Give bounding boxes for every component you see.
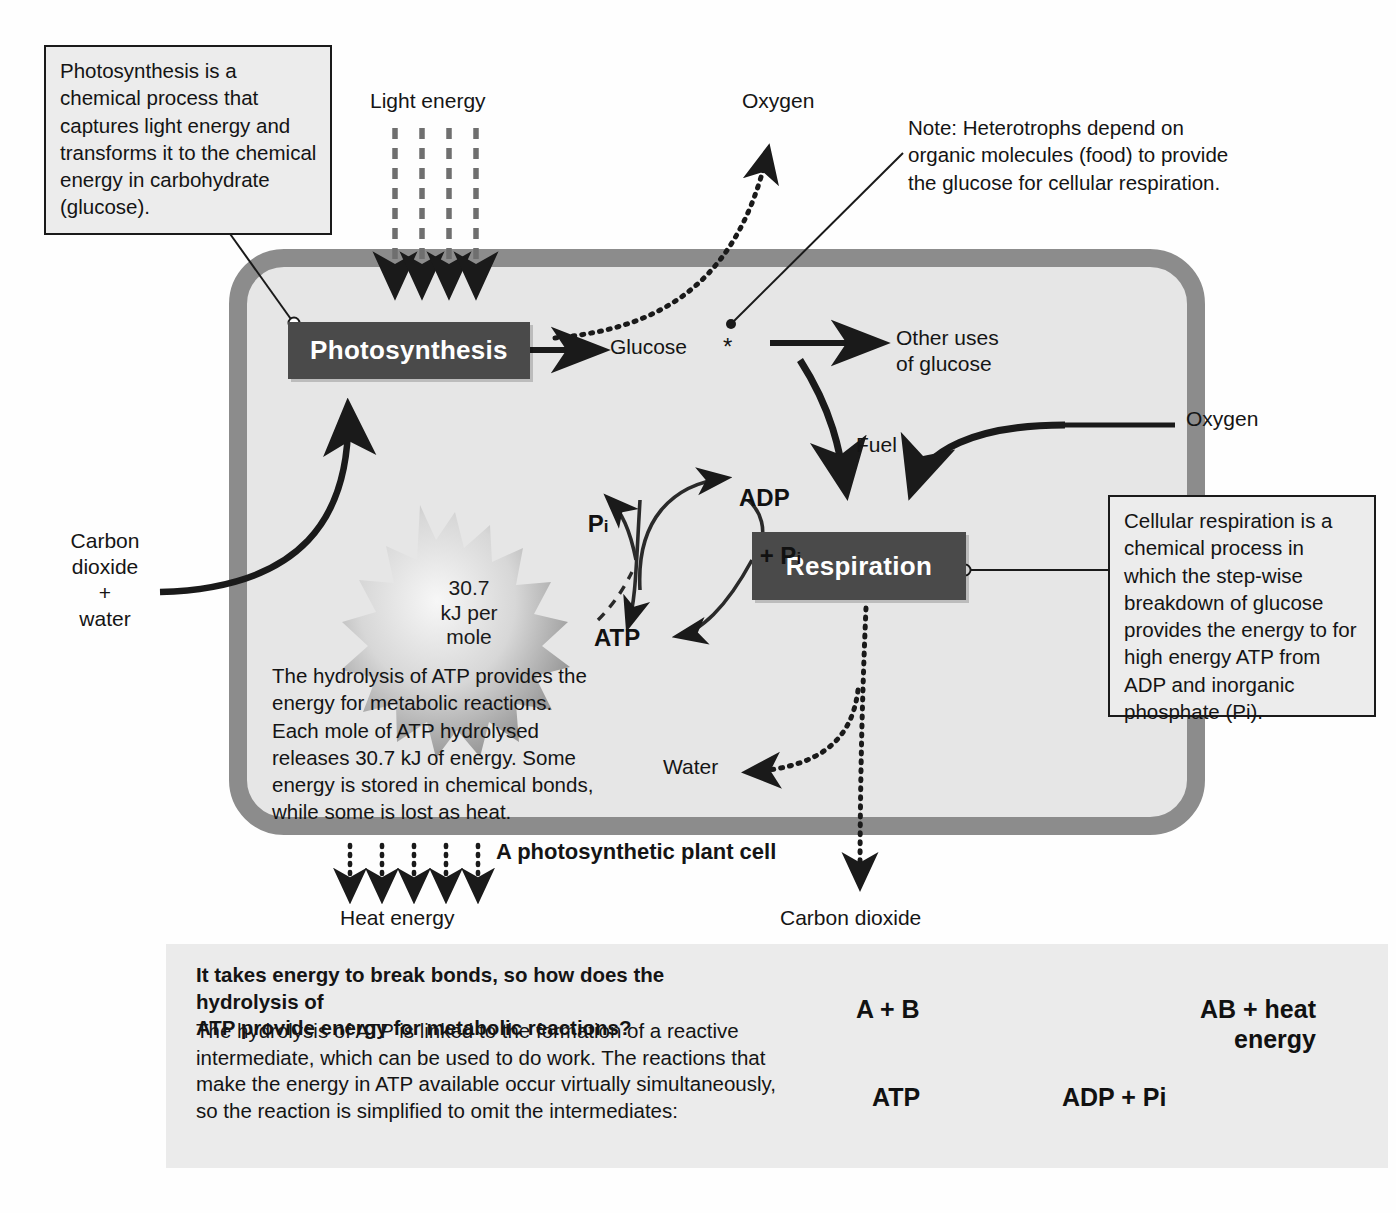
heterotroph-note: Note: Heterotrophs depend on organic mol… xyxy=(908,114,1308,196)
glucose-label: Glucose xyxy=(610,334,687,360)
oxygen-out-label: Oxygen xyxy=(742,88,814,114)
carbon-dioxide-out-label: Carbon dioxide xyxy=(780,905,921,931)
equation-reactants: A + B xyxy=(856,994,920,1024)
adp-plus-pi: + P xyxy=(760,542,797,569)
carbon-dioxide-water-label: Carbon dioxide + water xyxy=(50,528,160,632)
equation-products-line2: energy xyxy=(1166,1024,1316,1054)
equation-products-line1: AB + heat xyxy=(1166,994,1316,1024)
energy-burst-text: 30.7 kJ per mole xyxy=(406,576,532,650)
heat-energy-label: Heat energy xyxy=(340,905,454,931)
hydrolysis-explanation: The hydrolysis of ATP provides the energ… xyxy=(272,662,672,826)
pi-subscript: i xyxy=(604,517,609,536)
atp-label: ATP xyxy=(594,624,640,652)
photosynthesis-callout: Photosynthesis is a chemical process tha… xyxy=(44,45,332,235)
equation-cofactor-out: ADP + Pi xyxy=(1062,1082,1166,1112)
oxygen-in-label: Oxygen xyxy=(1186,406,1258,432)
cell-caption: A photosynthetic plant cell xyxy=(496,838,776,865)
light-energy-label: Light energy xyxy=(370,88,486,114)
pi-letter: P xyxy=(588,510,604,537)
fuel-label: Fuel xyxy=(856,432,897,458)
adp-pi-subscript: i xyxy=(796,549,801,568)
bottom-panel-body: The hydrolysis of ATP is linked to the f… xyxy=(196,1018,776,1125)
respiration-callout: Cellular respiration is a chemical proce… xyxy=(1108,495,1376,717)
photosynthesis-process-box: Photosynthesis xyxy=(288,322,530,379)
other-uses-of-glucose-label: Other uses of glucose xyxy=(896,325,999,377)
adp-label-line1: ADP xyxy=(739,484,790,512)
equation-cofactor-in: ATP xyxy=(872,1082,920,1112)
adp-label-line2: + Pi xyxy=(733,514,801,598)
glucose-asterisk: * xyxy=(723,332,732,362)
diagram-page: Photosynthesis is a chemical process tha… xyxy=(0,0,1396,1213)
heat-energy-arrows xyxy=(350,845,478,898)
pi-label: Pi xyxy=(561,482,608,566)
